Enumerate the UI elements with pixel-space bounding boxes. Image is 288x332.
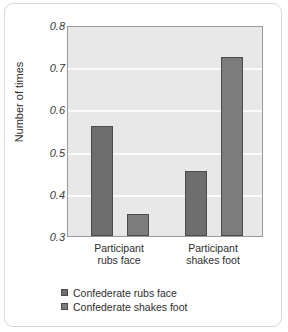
y-axis-tick-label: 0.8 — [27, 20, 65, 32]
plot-area — [67, 26, 263, 237]
chart-card: Number of times 0.80.70.60.50.40.3 Parti… — [4, 3, 282, 327]
y-axis-tick-label: 0.3 — [27, 231, 65, 243]
legend-label: Confederate shakes foot — [73, 301, 187, 313]
x-axis-tick-label-line2: rubs face — [71, 254, 167, 266]
x-axis-tick-label-line2: shakes foot — [165, 254, 261, 266]
y-axis-tick-label: 0.5 — [27, 147, 65, 159]
chart-legend: Confederate rubs faceConfederate shakes … — [61, 286, 187, 314]
bar — [127, 214, 149, 236]
legend-label: Confederate rubs face — [73, 287, 177, 299]
x-axis-tick-label: Participantrubs face — [71, 242, 167, 266]
bar — [185, 171, 207, 236]
y-axis-tick-label: 0.7 — [27, 62, 65, 74]
legend-swatch-icon — [61, 303, 68, 310]
y-axis-tick-label: 0.4 — [27, 189, 65, 201]
x-axis-tick-label-line1: Participant — [94, 242, 144, 254]
bar — [91, 126, 113, 236]
legend-item: Confederate shakes foot — [61, 300, 187, 313]
x-axis-tick-label: Participantshakes foot — [165, 242, 261, 266]
bar — [221, 57, 243, 236]
legend-item: Confederate rubs face — [61, 286, 187, 299]
y-axis-label: Number of times — [13, 42, 25, 162]
x-axis-tick-label-line1: Participant — [188, 242, 238, 254]
y-axis-tick-labels: 0.80.70.60.50.40.3 — [27, 4, 65, 332]
legend-swatch-icon — [61, 289, 68, 296]
y-axis-tick-label: 0.6 — [27, 104, 65, 116]
